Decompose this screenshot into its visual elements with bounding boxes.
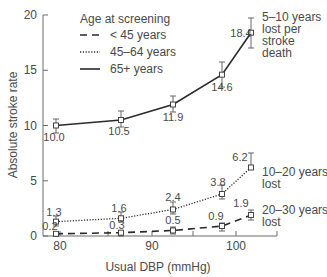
legend-label: 65+ years (110, 62, 163, 76)
value-label: 10.0 (43, 131, 64, 143)
data-point-marker (249, 213, 254, 218)
y-axis-label: Absolute stroke rate (6, 71, 20, 178)
series-layer: 10.010.511.914.618.41.31.62.43.86.20.20.… (42, 10, 327, 236)
data-point-marker (119, 117, 124, 122)
data-point-marker (54, 231, 59, 236)
series-annotation: 5–10 yearslost perstrokedeath (262, 10, 321, 60)
series-annotation: 10–20 yearslost (262, 165, 327, 191)
value-label: 6.2 (232, 151, 247, 163)
x-axis-label: Usual DBP (mmHg) (105, 260, 210, 274)
data-point-marker (249, 165, 254, 170)
value-label: 1.3 (46, 206, 61, 218)
y-tick-label: 5 (30, 174, 37, 188)
data-point-marker (220, 72, 225, 77)
value-label: 11.9 (163, 111, 184, 123)
value-label: 0.3 (109, 219, 124, 231)
data-point-marker (119, 230, 124, 235)
data-point-marker (220, 192, 225, 197)
x-tick-label: 80 (53, 239, 67, 253)
series-annotation: 20–30 yearslost (262, 203, 327, 229)
x-tick-label: 90 (145, 239, 159, 253)
legend: Age at screening< 45 years45–64 years65+… (80, 12, 176, 76)
data-point-marker (171, 228, 176, 233)
legend-label: 45–64 years (110, 45, 176, 59)
value-label: 2.4 (165, 191, 180, 203)
value-label: 14.6 (211, 81, 232, 93)
value-label: 0.5 (165, 214, 180, 226)
x-tick-label: 100 (226, 239, 246, 253)
value-label: 18.4 (230, 27, 251, 39)
data-point-marker (171, 207, 176, 212)
value-label: 0.9 (208, 210, 223, 222)
legend-label: < 45 years (110, 28, 166, 42)
value-label: 3.8 (210, 176, 225, 188)
y-tick-label: 0 (30, 229, 37, 243)
value-label: 1.9 (233, 197, 248, 209)
legend-title: Age at screening (80, 12, 170, 26)
y-tick-label: 15 (24, 63, 38, 77)
data-point-marker (171, 102, 176, 107)
value-label: 0.2 (42, 220, 57, 232)
y-tick-label: 20 (24, 8, 38, 22)
stroke-rate-line-chart: 051015208090100 10.010.511.914.618.41.31… (0, 0, 327, 277)
series-dashed: 0.20.30.50.91.9 (42, 197, 254, 236)
value-label: 1.6 (111, 202, 126, 214)
value-label: 10.5 (108, 125, 129, 137)
data-point-marker (220, 224, 225, 229)
data-point-marker (54, 123, 59, 128)
y-tick-label: 10 (24, 119, 38, 133)
